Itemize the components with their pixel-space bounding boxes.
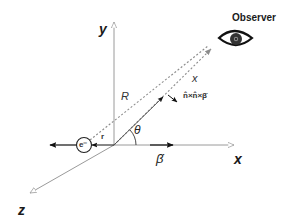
beta-dot-label: β̇: [156, 152, 163, 165]
observer-label: Observer: [232, 13, 276, 23]
R-label: R: [121, 91, 129, 102]
radiation-geometry-diagram: y x z Observer R x r θ β̇ e⁻ n̂×n̂×β̇: [0, 0, 292, 223]
x-vector-label: x: [192, 73, 198, 84]
eye-icon: [219, 31, 252, 45]
r-label: r: [101, 133, 104, 141]
direction-ray: [114, 97, 163, 145]
z-axis: [30, 145, 114, 193]
polarization-arrow: [168, 95, 177, 102]
theta-label: θ: [134, 124, 141, 136]
y-axis-label: y: [99, 22, 107, 36]
electron-label: e⁻: [79, 141, 87, 149]
radiation-direction-label: n̂×n̂×β̇: [183, 92, 207, 100]
x-axis-label: x: [234, 152, 242, 166]
z-axis-label: z: [18, 203, 25, 217]
